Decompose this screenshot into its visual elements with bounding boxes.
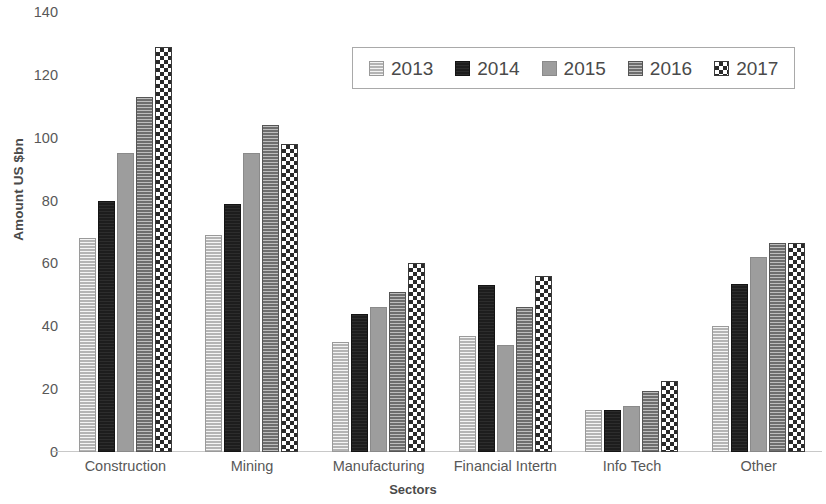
bar-2016-construction[interactable] [136,97,153,452]
legend-label: 2013 [391,59,433,78]
x-axis-tick-label: Info Tech [603,458,662,474]
bar-2017-info-tech[interactable] [661,381,678,452]
legend-item-2017[interactable]: 2017 [714,59,778,78]
bar-2017-construction[interactable] [155,47,172,452]
x-axis-tick-label: Mining [231,458,274,474]
bar-2014-mining[interactable] [224,204,241,452]
legend-item-2016[interactable]: 2016 [628,59,692,78]
legend-item-2014[interactable]: 2014 [455,59,519,78]
bar-2014-construction[interactable] [98,201,115,452]
y-axis-tick-label: 140 [12,5,58,20]
bar-2015-construction[interactable] [117,153,134,452]
bar-2015-financial-intertn[interactable] [497,345,514,452]
y-axis-tick-label: 100 [12,131,58,146]
bar-2013-mining[interactable] [205,235,222,452]
legend-label: 2015 [564,59,606,78]
bar-2017-other[interactable] [788,243,805,452]
bar-2015-mining[interactable] [243,153,260,452]
bar-2015-manufacturing[interactable] [370,307,387,452]
y-axis-tick-label: 80 [12,194,58,209]
y-axis-tick-label: 20 [12,382,58,397]
bar-2016-manufacturing[interactable] [389,292,406,452]
bar-2013-other[interactable] [712,326,729,452]
bar-group [62,12,189,452]
bar-2014-info-tech[interactable] [604,410,621,452]
x-axis-title: Sectors [0,482,826,497]
x-axis-tick-label: Financial Intertn [454,458,557,474]
bar-chart: Amount US $bn 020406080100120140 Constru… [0,0,826,504]
bar-2013-financial-intertn[interactable] [459,336,476,452]
bar-2017-mining[interactable] [281,144,298,452]
legend-swatch-icon-2013 [369,61,384,76]
bar-2016-financial-intertn[interactable] [516,307,533,452]
bar-2016-other[interactable] [769,243,786,452]
x-axis-tick-label: Manufacturing [333,458,425,474]
bar-2013-info-tech[interactable] [585,410,602,452]
bar-2013-construction[interactable] [79,238,96,452]
legend-swatch-icon-2017 [714,61,729,76]
legend-swatch-icon-2014 [455,61,470,76]
bar-2014-financial-intertn[interactable] [478,285,495,452]
y-axis-tick-labels: 020406080100120140 [0,0,58,504]
legend-swatch-icon-2016 [628,61,643,76]
y-axis-tick-label: 40 [12,319,58,334]
bar-2017-financial-intertn[interactable] [535,276,552,452]
bar-2014-manufacturing[interactable] [351,314,368,452]
legend-label: 2016 [650,59,692,78]
bar-2013-manufacturing[interactable] [332,342,349,452]
legend-label: 2014 [477,59,519,78]
bar-group [189,12,316,452]
x-axis-tick-label: Construction [85,458,166,474]
legend-item-2015[interactable]: 2015 [542,59,606,78]
y-axis-tick-label: 120 [12,68,58,83]
legend-item-2013[interactable]: 2013 [369,59,433,78]
bar-2015-other[interactable] [750,257,767,452]
bar-2016-info-tech[interactable] [642,391,659,452]
bar-2014-other[interactable] [731,284,748,452]
legend-label: 2017 [736,59,778,78]
chart-legend: 20132014201520162017 [352,47,795,89]
x-axis-tick-label: Other [741,458,777,474]
y-axis-tick-label: 0 [12,445,58,460]
y-axis-tick-label: 60 [12,256,58,271]
bar-2017-manufacturing[interactable] [408,263,425,452]
legend-swatch-icon-2015 [542,61,557,76]
bar-2016-mining[interactable] [262,125,279,452]
bar-2015-info-tech[interactable] [623,406,640,452]
